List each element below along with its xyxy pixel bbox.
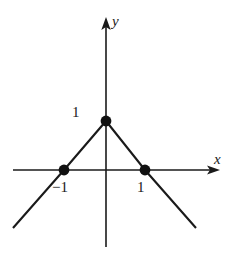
point-right-intercept	[140, 165, 151, 176]
x-axis-label: x	[214, 152, 221, 167]
graph-canvas	[0, 0, 239, 267]
y-axis-label: y	[112, 14, 119, 29]
graph-figure: y x 1 −1 1	[0, 0, 239, 267]
function-curve	[13, 121, 196, 228]
y-tick-label-1: 1	[72, 105, 80, 120]
x-tick-label-negative-1: −1	[52, 180, 68, 195]
x-tick-label-1: 1	[137, 180, 145, 195]
point-apex	[101, 116, 112, 127]
point-left-intercept	[59, 165, 70, 176]
